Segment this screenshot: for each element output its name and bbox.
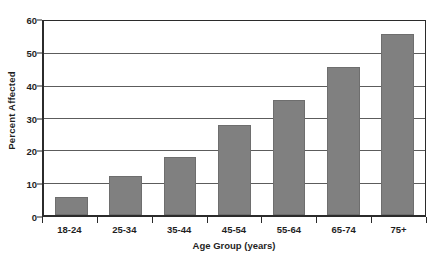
y-axis-tick-label: 40 <box>26 80 37 91</box>
bar-chart-figure: Percent Affected 0102030405060 18-2425-3… <box>0 0 442 265</box>
bar <box>327 67 360 215</box>
y-axis-tick-column: 0102030405060 <box>18 20 42 217</box>
bar-series <box>44 21 425 215</box>
y-axis-title-text: Percent Affected <box>6 71 17 149</box>
bar-slot <box>316 21 370 215</box>
bar-slot <box>153 21 207 215</box>
y-axis-tick-label: 10 <box>26 179 37 190</box>
x-axis-category-label: 65-74 <box>316 222 371 238</box>
bar <box>218 125 251 215</box>
bar-slot <box>98 21 152 215</box>
x-axis-category-label: 18-24 <box>42 222 97 238</box>
bar-slot <box>371 21 425 215</box>
bar-slot <box>207 21 261 215</box>
x-axis-category-label: 75+ <box>371 222 426 238</box>
y-axis-tick-label: 60 <box>26 15 37 26</box>
x-axis-title: Age Group (years) <box>42 240 426 251</box>
bar <box>109 176 142 215</box>
bar <box>55 197 88 215</box>
plot-area <box>42 20 426 217</box>
bar <box>381 34 414 215</box>
x-axis-category-labels: 18-2425-3435-4445-5455-6465-7475+ <box>42 222 426 238</box>
bar-slot <box>44 21 98 215</box>
y-axis-tick-label: 30 <box>26 113 37 124</box>
x-axis-category-label: 35-44 <box>152 222 207 238</box>
x-axis-category-label: 25-34 <box>97 222 152 238</box>
bar <box>273 100 306 215</box>
bar-slot <box>262 21 316 215</box>
x-axis-tick-mark <box>426 217 427 223</box>
bar <box>164 157 197 215</box>
y-axis-tick-label: 20 <box>26 146 37 157</box>
x-axis-category-label: 55-64 <box>261 222 316 238</box>
x-axis-category-label: 45-54 <box>207 222 262 238</box>
y-axis-tick-label: 50 <box>26 47 37 58</box>
